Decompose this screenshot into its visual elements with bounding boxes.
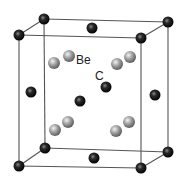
cell-edge — [19, 166, 141, 168]
c-atom-face-left — [26, 87, 37, 98]
c-atom-corner-front-bottom-left — [14, 161, 25, 172]
c-atom-corner-back-bottom-left — [40, 143, 51, 154]
c-atom-face-front — [75, 96, 86, 107]
be-atom-be-7 — [110, 125, 122, 137]
c-atom-corner-front-top-right — [136, 33, 147, 44]
beryllium-atoms — [48, 50, 136, 137]
c-atom-face-back — [101, 82, 112, 93]
be-label: Be — [76, 53, 91, 67]
be-atom-be-3 — [111, 58, 123, 70]
be-atom-be-5 — [49, 124, 61, 136]
c-atom-corner-back-top-left — [39, 14, 50, 25]
c-atom-face-bottom — [89, 153, 100, 164]
cell-edge — [44, 19, 45, 148]
be-atom-be-2 — [63, 50, 75, 62]
c-atom-corner-back-top-right — [163, 17, 174, 28]
cell-edge — [19, 35, 141, 38]
c-atom-corner-front-top-left — [14, 30, 25, 41]
be-atom-be-8 — [123, 116, 135, 128]
crystal-structure-diagram: Be C — [0, 0, 183, 183]
c-atom-corner-front-bottom-right — [136, 163, 147, 174]
c-atom-face-right — [150, 90, 161, 101]
c-label: C — [95, 69, 104, 83]
be-atom-be-6 — [62, 116, 74, 128]
c-atom-corner-back-bottom-right — [163, 147, 174, 158]
cell-edge — [45, 148, 168, 152]
be-atom-be-1 — [48, 57, 60, 69]
be-atom-be-4 — [124, 51, 136, 63]
c-atom-face-top — [87, 23, 98, 34]
cell-edge — [44, 19, 168, 22]
